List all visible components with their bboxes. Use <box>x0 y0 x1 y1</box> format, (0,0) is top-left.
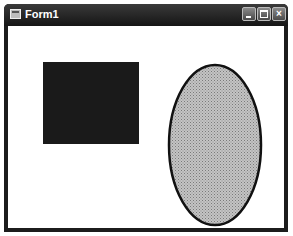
hatched-ellipse <box>166 62 264 228</box>
minimize-icon <box>246 16 251 18</box>
close-button[interactable]: × <box>272 7 286 21</box>
client-area <box>8 26 284 228</box>
app-icon[interactable] <box>10 9 21 19</box>
maximize-button[interactable] <box>257 7 271 21</box>
filled-rectangle <box>43 62 139 144</box>
close-icon: × <box>276 8 282 19</box>
maximize-icon <box>260 10 268 18</box>
window-title: Form1 <box>25 8 59 20</box>
title-bar[interactable]: Form1 × <box>4 4 288 26</box>
minimize-button[interactable] <box>242 7 256 21</box>
form-window: Form1 × <box>4 4 288 232</box>
